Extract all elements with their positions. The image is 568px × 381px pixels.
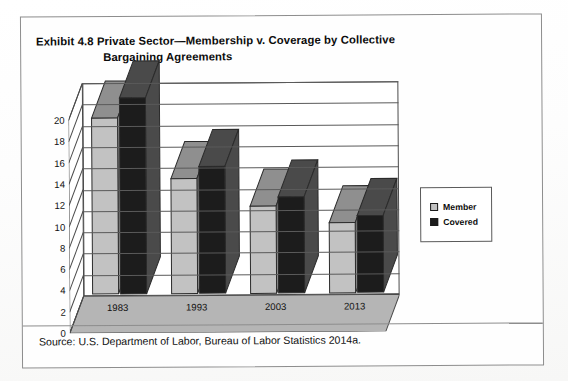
bar-3d-body: [120, 61, 163, 296]
x-axis: 1983199320032013: [70, 300, 400, 322]
y-axis-tick-label: 2: [44, 307, 66, 318]
bar-3d-body: [199, 130, 242, 296]
source-note: Source: U.S. Department of Labor, Bureau…: [39, 334, 361, 348]
legend-item-covered: Covered: [430, 217, 483, 227]
bar-2013-covered: [357, 218, 383, 295]
y-axis-tick-label: 4: [44, 285, 66, 296]
bar-1993-member: [171, 181, 198, 296]
legend-swatch-covered-icon: [430, 218, 438, 226]
x-axis-tick-label: 1983: [107, 302, 128, 313]
bar-chart: 02468101214161820 1983199320032013 Membe…: [21, 80, 543, 333]
x-axis-tick-label: 2003: [265, 301, 286, 312]
y-axis-tick-label: 20: [43, 115, 65, 126]
legend-item-member: Member: [430, 202, 483, 212]
bar-3d-body: [278, 160, 321, 295]
legend-label: Covered: [443, 217, 478, 227]
bar-3d-body: [357, 179, 400, 295]
title-line-2: Bargaining Agreements: [36, 47, 516, 66]
y-axis-tick-label: 14: [43, 179, 65, 190]
legend-swatch-member-icon: [430, 203, 438, 211]
bar-2013-member: [330, 224, 356, 294]
y-axis-tick-label: 10: [43, 221, 65, 232]
exhibit-title: Exhibit 4.8 Private Sector—Membership v.…: [36, 31, 516, 66]
y-axis-tick-label: 16: [43, 157, 65, 168]
legend-label: Member: [443, 202, 476, 212]
bar-2003-covered: [278, 199, 305, 295]
y-axis-tick-label: 18: [43, 136, 65, 147]
y-axis-tick-label: 12: [43, 200, 65, 211]
y-axis-tick-label: 6: [43, 264, 65, 275]
plot-area: [68, 81, 400, 333]
y-axis: 02468101214161820: [40, 83, 66, 333]
chart-legend: MemberCovered: [420, 187, 492, 242]
bar-2003-member: [250, 208, 277, 295]
x-axis-tick-label: 2013: [344, 300, 365, 311]
bar-1983-covered: [120, 100, 147, 296]
x-axis-tick-label: 1993: [186, 301, 207, 312]
y-axis-tick-label: 8: [43, 243, 65, 254]
exhibit-frame: Exhibit 4.8 Private Sector—Membership v.…: [20, 13, 544, 368]
